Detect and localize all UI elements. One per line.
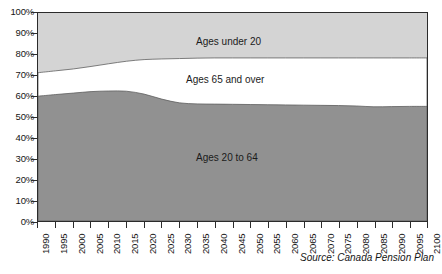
x-axis-tick-label: 2010 (112, 234, 122, 254)
x-axis-tick-label: 2075 (343, 234, 353, 254)
x-axis-tick-label: 2015 (130, 234, 140, 254)
x-axis-tick-label: 2035 (201, 234, 211, 254)
x-axis-tick-label: 1995 (59, 234, 69, 254)
x-axis-tick-label: 1990 (41, 234, 51, 254)
y-axis-tick-label: 60% (0, 91, 34, 101)
x-axis-tick-label: 2060 (290, 234, 300, 254)
band-label-ages-20-to-64: Ages 20 to 64 (196, 152, 258, 163)
x-axis-tick-label: 2090 (397, 234, 407, 254)
y-axis-tick-label: 90% (0, 28, 34, 38)
x-axis-tick-label: 2020 (148, 234, 158, 254)
y-axis-tick-label: 50% (0, 112, 34, 122)
x-axis-tick-label: 2065 (308, 234, 318, 254)
chart-figure: 100%90%80%70%60%50%40%30%20%10%0% Ages u… (0, 0, 442, 274)
x-axis-tick-label: 2045 (237, 234, 247, 254)
x-axis-tick-label: 2040 (219, 234, 229, 254)
y-axis-tick-label: 70% (0, 70, 34, 80)
source-note: Source: Canada Pension Plan (300, 252, 434, 263)
band-label-ages-65-and-over: Ages 65 and over (186, 74, 264, 85)
y-axis-tick-label: 30% (0, 154, 34, 164)
y-axis-tick-label: 100% (0, 7, 34, 17)
y-axis-tick-label: 20% (0, 175, 34, 185)
x-axis-tick-label: 2005 (95, 234, 105, 254)
x-axis-tick-label: 2070 (326, 234, 336, 254)
y-axis-tick-label: 80% (0, 49, 34, 59)
x-axis-tick-label: 2100 (432, 234, 442, 254)
x-axis-tick-label: 2085 (379, 234, 389, 254)
y-axis-tick-label: 40% (0, 133, 34, 143)
y-axis-tick-label: 10% (0, 196, 34, 206)
x-axis-tick-label: 2050 (255, 234, 265, 254)
x-axis-tick-label: 2055 (272, 234, 282, 254)
y-axis-tick-label: 0% (0, 217, 34, 227)
x-axis-tick-label: 2025 (166, 234, 176, 254)
x-axis-tick-label: 2080 (361, 234, 371, 254)
x-axis-tick-label: 2030 (183, 234, 193, 254)
band-label-ages-under-20: Ages under 20 (196, 36, 261, 47)
x-axis-tick-label: 2095 (415, 234, 425, 254)
x-axis-tick-label: 2000 (77, 234, 87, 254)
